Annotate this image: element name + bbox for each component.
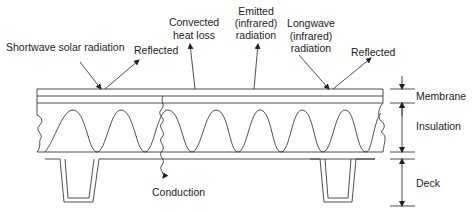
roof-heat-transfer-diagram: Shortwave solar radiation Reflected Conv… — [0, 0, 472, 212]
conduction-label: Conduction — [152, 186, 205, 198]
reflected-left-label: Reflected — [134, 44, 178, 56]
emitted-label-2: (infrared) — [230, 17, 282, 29]
membrane-layer — [37, 89, 383, 103]
deck-label: Deck — [416, 177, 440, 189]
dimension-markers — [390, 76, 415, 206]
emitted-label-3: radiation — [230, 29, 282, 41]
conduction-path — [160, 96, 164, 178]
longwave-label-2: (infrared) — [281, 30, 341, 42]
membrane-label: Membrane — [416, 90, 466, 102]
convected-label-1: Convected — [164, 16, 224, 28]
insulation-layer — [37, 103, 385, 152]
longwave-label-1: Longwave — [281, 17, 341, 29]
deck-layer — [45, 159, 375, 202]
shortwave-label: Shortwave solar radiation — [6, 41, 124, 53]
insulation-label: Insulation — [416, 120, 461, 132]
longwave-label-3: radiation — [281, 42, 341, 54]
emitted-label-1: Emitted — [230, 5, 282, 17]
reflected-right-label: Reflected — [351, 46, 395, 58]
convected-label-2: heat loss — [164, 29, 224, 41]
